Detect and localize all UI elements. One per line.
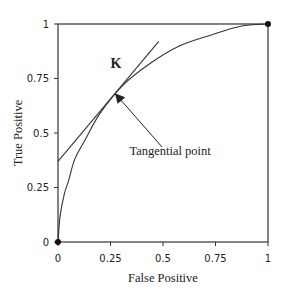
y-tick-label: 0.25 xyxy=(27,182,49,193)
x-axis-ticks: 00.250.50.751 xyxy=(55,242,271,264)
annotation-k: K xyxy=(111,56,122,71)
roc-chart: 00.250.50.751 00.250.50.751 K Tangential… xyxy=(0,0,284,297)
tangential-point-arrow xyxy=(121,100,162,147)
y-tick-label: 0.5 xyxy=(33,128,49,139)
x-tick-label: 1 xyxy=(265,253,271,264)
plot-frame xyxy=(58,24,268,242)
y-tick-label: 1 xyxy=(43,19,49,30)
marker-top-right xyxy=(265,21,271,27)
plot-series xyxy=(58,24,268,242)
x-tick-label: 0.75 xyxy=(204,253,226,264)
y-axis-label: True Positive xyxy=(11,99,25,166)
y-tick-label: 0 xyxy=(43,237,49,248)
plot-border xyxy=(58,24,268,242)
y-tick-label: 0.75 xyxy=(27,73,49,84)
annotation-tangential-point: Tangential point xyxy=(129,144,211,158)
x-axis-label: False Positive xyxy=(128,271,198,285)
x-tick-label: 0.25 xyxy=(99,253,121,264)
roc-curve xyxy=(58,24,268,242)
marker-origin xyxy=(55,239,61,245)
x-tick-label: 0 xyxy=(55,253,61,264)
x-tick-label: 0.5 xyxy=(155,253,171,264)
y-axis-ticks: 00.250.50.751 xyxy=(27,19,58,248)
